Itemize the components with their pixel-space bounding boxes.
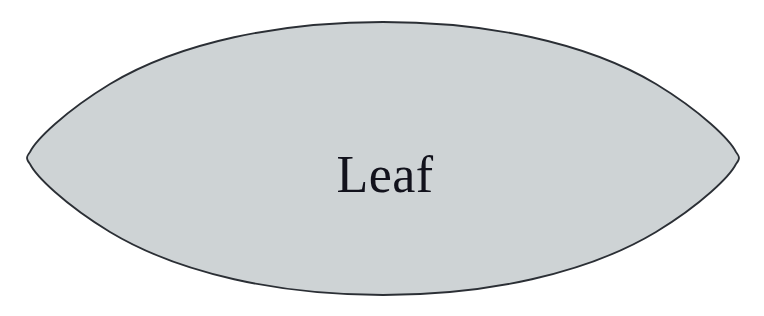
- leaf-shape-svg: Leaf: [0, 0, 764, 316]
- leaf-shape-label: Leaf: [336, 146, 433, 203]
- diagram-canvas: Leaf: [0, 0, 764, 316]
